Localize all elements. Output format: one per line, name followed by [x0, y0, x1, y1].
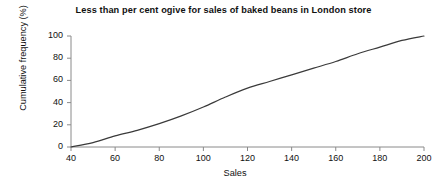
- x-tick-label: 40: [51, 153, 91, 163]
- y-tick-label: 20: [33, 119, 63, 129]
- y-tick-label: 40: [33, 97, 63, 107]
- x-tick-label: 80: [139, 153, 179, 163]
- y-tick-label: 0: [33, 141, 63, 151]
- x-tick-label: 180: [360, 153, 400, 163]
- x-tick-label: 160: [316, 153, 356, 163]
- y-tick-label: 60: [33, 74, 63, 84]
- x-tick-label: 140: [272, 153, 312, 163]
- ogive-chart-figure: Less than per cent ogive for sales of ba…: [0, 0, 447, 189]
- ogive-curve-line: [71, 36, 424, 147]
- x-tick-marks: [71, 147, 424, 151]
- y-tick-label: 100: [33, 30, 63, 40]
- x-tick-label: 60: [95, 153, 135, 163]
- y-tick-label: 80: [33, 52, 63, 62]
- x-tick-label: 100: [183, 153, 223, 163]
- x-tick-label: 120: [228, 153, 268, 163]
- y-tick-marks: [67, 36, 71, 147]
- x-tick-label: 200: [404, 153, 444, 163]
